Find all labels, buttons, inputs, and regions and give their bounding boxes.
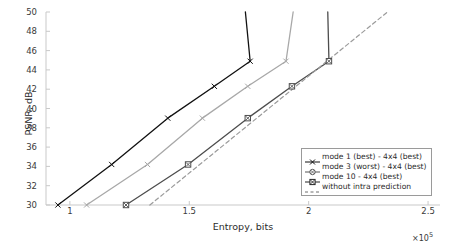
chart-legend[interactable]: mode 1 (best) - 4x4 (best)mode 3 (worst)… bbox=[301, 148, 432, 196]
legend-label: without intra prediction bbox=[322, 182, 411, 192]
x-tick-label: 1 bbox=[67, 206, 72, 216]
legend-item[interactable]: mode 3 (worst) - 4x4 (best) bbox=[305, 162, 427, 172]
y-tick-label: 50 bbox=[26, 7, 37, 17]
x-tick-label: 1.5 bbox=[183, 206, 197, 216]
series-marker-1 bbox=[145, 162, 150, 167]
x-tick-label: 2.5 bbox=[421, 206, 435, 216]
y-tick-label: 48 bbox=[26, 26, 37, 36]
series-marker-1 bbox=[245, 84, 250, 89]
legend-marker-icon bbox=[305, 152, 320, 162]
legend-marker-icon bbox=[305, 162, 320, 172]
series-marker-2 bbox=[185, 162, 190, 167]
legend-item[interactable]: without intra prediction bbox=[305, 182, 427, 192]
legend-marker-icon bbox=[305, 172, 320, 182]
y-tick-label: 32 bbox=[26, 181, 37, 191]
legend-item[interactable]: mode 10 - 4x4 (best) bbox=[305, 172, 427, 182]
legend-item[interactable]: mode 1 (best) - 4x4 (best) bbox=[305, 152, 427, 162]
y-tick-label: 30 bbox=[26, 200, 37, 210]
series-marker-0 bbox=[212, 84, 217, 89]
x-axis-exponent-multiplier: ×105 bbox=[412, 231, 433, 243]
series-marker-0 bbox=[109, 162, 114, 167]
y-axis-title: PSNR, dB bbox=[23, 64, 34, 164]
y-axis-tick-labels: 3032343638404244464850 bbox=[0, 12, 42, 205]
series-line-2 bbox=[126, 12, 329, 205]
legend-label: mode 3 (worst) - 4x4 (best) bbox=[322, 162, 427, 172]
series-marker-1 bbox=[200, 116, 205, 121]
x-tick-label: 2 bbox=[306, 206, 311, 216]
x-axis-title: Entropy, bits bbox=[46, 221, 440, 232]
legend-marker-icon bbox=[305, 182, 320, 192]
x-axis-multiplier-exponent: 5 bbox=[429, 231, 433, 239]
series-line-0 bbox=[58, 12, 250, 205]
legend-label: mode 10 - 4x4 (best) bbox=[322, 172, 402, 182]
legend-label: mode 1 (best) - 4x4 (best) bbox=[322, 152, 422, 162]
series-marker-2 bbox=[289, 84, 294, 89]
x-axis-tick-labels: 11.522.5 bbox=[46, 206, 440, 220]
chart-figure: 3032343638404244464850 PSNR, dB 11.522.5… bbox=[0, 0, 452, 246]
series-marker-2 bbox=[245, 115, 250, 120]
series-marker-2 bbox=[326, 59, 331, 64]
x-axis-multiplier-base: ×10 bbox=[412, 234, 429, 243]
series-marker-0 bbox=[165, 116, 170, 121]
y-tick-label: 46 bbox=[26, 46, 37, 56]
